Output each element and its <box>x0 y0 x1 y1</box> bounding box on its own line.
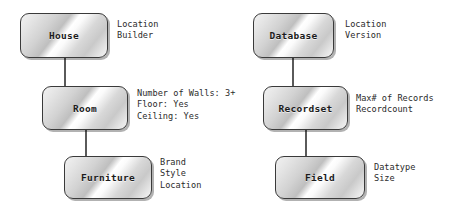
node-field-label: Field <box>305 172 335 183</box>
attribute-recordset-0: Max# of Records <box>356 93 434 104</box>
node-room-label: Room <box>73 103 97 114</box>
attributes-database: Location Version <box>345 19 386 42</box>
attribute-database-1: Version <box>345 30 386 41</box>
attributes-field: Datatype Size <box>374 162 415 185</box>
connector-house-room <box>64 57 66 87</box>
attribute-furniture-0: Brand <box>160 157 201 168</box>
attributes-furniture: Brand Style Location <box>160 157 201 191</box>
node-database-label: Database <box>269 30 317 41</box>
attribute-field-0: Datatype <box>374 162 415 173</box>
node-field[interactable]: Field <box>275 156 365 199</box>
attribute-house-1: Builder <box>117 30 158 41</box>
attribute-furniture-2: Location <box>160 180 201 191</box>
attribute-field-1: Size <box>374 173 415 184</box>
attributes-room: Number of Walls: 3+ Floor: Yes Ceiling: … <box>137 88 235 122</box>
node-recordset-label: Recordset <box>278 103 332 114</box>
node-furniture-label: Furniture <box>81 172 135 183</box>
attribute-house-0: Location <box>117 19 158 30</box>
attribute-room-0: Number of Walls: 3+ <box>137 88 235 99</box>
connector-recordset-field <box>305 129 307 156</box>
attribute-room-1: Floor: Yes <box>137 99 235 110</box>
attribute-furniture-1: Style <box>160 168 201 179</box>
attributes-house: Location Builder <box>117 19 158 42</box>
connector-database-recordset <box>292 57 294 87</box>
connector-room-furniture <box>85 129 87 156</box>
node-database[interactable]: Database <box>253 13 334 58</box>
node-house-label: House <box>49 30 79 41</box>
node-furniture[interactable]: Furniture <box>64 156 152 199</box>
diagram-canvas: House Location Builder Room Number of Wa… <box>0 0 451 216</box>
attribute-room-2: Ceiling: Yes <box>137 111 235 122</box>
attribute-recordset-1: Recordcount <box>356 104 434 115</box>
attribute-database-0: Location <box>345 19 386 30</box>
attributes-recordset: Max# of Records Recordcount <box>356 93 434 116</box>
node-room[interactable]: Room <box>42 86 128 130</box>
node-recordset[interactable]: Recordset <box>263 86 348 130</box>
node-house[interactable]: House <box>20 13 108 58</box>
